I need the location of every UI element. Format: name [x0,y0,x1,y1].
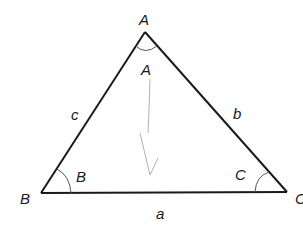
side-c-label: c [71,106,79,123]
angle-B-arc [57,169,71,193]
angle-A-arc [136,46,157,51]
side-c-line [41,32,145,193]
side-a-line [41,192,287,193]
side-b-line [145,32,287,192]
vertex-B-label: B [20,190,30,207]
angle-B-label: B [76,168,86,185]
side-b-label: b [233,105,241,122]
vertex-A-label: A [138,11,149,28]
triangle-diagram: A A c b B B C C a [0,0,303,235]
angle-C-label: C [235,166,246,183]
side-a-label: a [156,205,164,222]
angle-A-label: A [140,61,151,78]
pencil-arrow-icon [140,79,158,175]
vertex-C-label: C [295,190,303,207]
angle-C-arc [255,172,269,192]
